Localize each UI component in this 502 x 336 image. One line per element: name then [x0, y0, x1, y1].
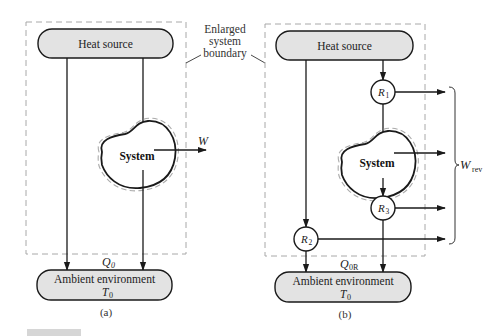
- svg-text:0R: 0R: [349, 263, 359, 272]
- annotation-leader-b: [251, 55, 265, 63]
- svg-text:0: 0: [347, 293, 351, 302]
- ambient-environment-b: Ambient environment T 0: [275, 272, 411, 302]
- caption-b: (b): [339, 308, 352, 321]
- svg-text:3: 3: [386, 207, 390, 216]
- panel-b: Heat source R 1 System R 3: [265, 24, 482, 321]
- ambient-label: Ambient environment: [54, 273, 156, 285]
- heat-rejected-label-b: Q 0R: [340, 257, 359, 272]
- panel-a: Heat source System W Q 0 Ambient environ…: [26, 22, 209, 319]
- svg-text:rev: rev: [472, 165, 482, 174]
- heat-rejected-label-a: Q 0: [102, 255, 115, 270]
- enlarged-boundary-annotation: Enlarged system boundary: [186, 23, 265, 63]
- heat-source-label: Heat source: [317, 40, 372, 52]
- svg-text:boundary: boundary: [203, 47, 247, 60]
- svg-text:0: 0: [111, 261, 115, 270]
- svg-text:W: W: [460, 158, 472, 172]
- svg-text:Q: Q: [340, 257, 349, 271]
- work-label-a: W: [198, 134, 209, 148]
- system-label: System: [359, 157, 395, 170]
- ambient-environment-a: Ambient environment T 0: [37, 270, 172, 300]
- work-rev-label: W rev: [460, 158, 482, 174]
- svg-text:Q: Q: [102, 255, 111, 269]
- figure-number-bar: [27, 329, 81, 336]
- system-label: System: [119, 150, 155, 163]
- svg-text:R: R: [377, 202, 385, 214]
- heat-source-label: Heat source: [78, 38, 133, 50]
- annotation-leader-a: [186, 55, 201, 63]
- system-a: System: [98, 118, 178, 191]
- caption-a: (a): [100, 306, 113, 319]
- svg-text:R: R: [300, 233, 308, 245]
- heat-source-b: Heat source: [276, 31, 413, 60]
- ambient-label: Ambient environment: [292, 275, 394, 287]
- reversible-engine-r2: R 2: [294, 227, 318, 251]
- svg-text:2: 2: [309, 238, 313, 247]
- svg-text:0: 0: [109, 291, 113, 300]
- svg-text:1: 1: [386, 91, 390, 100]
- reversible-engine-r3: R 3: [371, 196, 395, 220]
- thermodynamics-diagram: Heat source System W Q 0 Ambient environ…: [0, 0, 502, 336]
- svg-text:R: R: [377, 86, 385, 98]
- work-rev-brace: [449, 87, 459, 244]
- system-b: System: [338, 128, 418, 201]
- reversible-engine-r1: R 1: [371, 80, 395, 104]
- heat-source-a: Heat source: [38, 29, 173, 58]
